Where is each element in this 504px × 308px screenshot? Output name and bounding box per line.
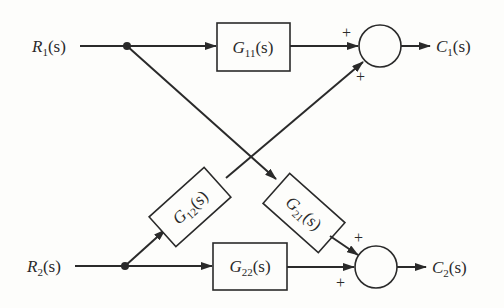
wire-g12-to-sum1 (226, 62, 363, 178)
input-label-r1: R1(s) (31, 37, 66, 58)
summing-junction-1 (359, 25, 401, 67)
sum2-sign-bottom: + (336, 274, 345, 291)
sum2-sign-top: + (354, 229, 363, 246)
output-label-c1: C1(s) (436, 37, 471, 58)
wire-r2-to-g12 (125, 230, 165, 266)
block-g12: G12(s) (149, 167, 231, 246)
output-label-c2: C2(s) (432, 258, 467, 279)
block-g11: G11(s) (217, 23, 290, 71)
block-diagram: R1(s) G11(s) + + C1(s) R2(s) G22(s) + + … (0, 0, 504, 308)
block-g21: G21(s) (263, 173, 345, 252)
summing-junction-2 (355, 246, 397, 288)
input-label-r2: R2(s) (26, 257, 61, 278)
sum1-sign-bottom: + (356, 68, 365, 85)
block-g22: G22(s) (213, 243, 287, 290)
sum1-sign-top: + (342, 24, 351, 41)
